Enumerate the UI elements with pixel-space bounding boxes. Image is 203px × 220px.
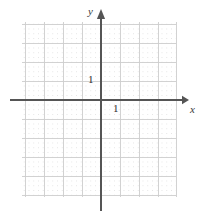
minor-gridlines [22, 22, 176, 197]
x-axis-unit-label: 1 [113, 103, 119, 114]
x-axis-label: x [190, 104, 195, 115]
y-axis-label: y [88, 6, 93, 17]
y-axis-arrowhead [97, 9, 105, 19]
y-axis-unit-label: 1 [88, 74, 94, 85]
x-axis-arrowhead [182, 96, 189, 104]
grid-canvas [0, 0, 203, 220]
coordinate-grid-figure: y x 1 1 [0, 0, 203, 220]
